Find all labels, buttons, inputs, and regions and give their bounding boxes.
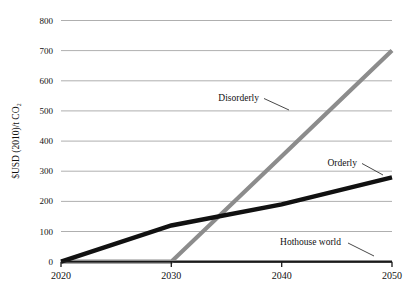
series-line-orderly [61,177,392,261]
y-tick-label: 800 [40,16,54,26]
x-axis-tick-labels: 2020 2030 2040 2050 [51,270,402,281]
gridlines [61,21,392,232]
y-tick-label: 400 [40,136,54,146]
series-line-disorderly [61,51,392,262]
annotation-orderly: Orderly [327,158,383,175]
y-tick-label: 600 [40,76,54,86]
y-tick-label: 300 [40,166,54,176]
x-tick-label: 2030 [161,270,181,281]
annotation-hothouse-world-leader [348,243,374,256]
annotation-hothouse-world-label: Hothouse world [280,237,341,247]
y-tick-label: 700 [40,46,54,56]
x-tick-label: 2040 [272,270,292,281]
annotation-disorderly-leader [264,99,289,111]
y-tick-label: 200 [40,196,54,206]
y-tick-label: 100 [40,227,54,237]
annotation-disorderly: Disorderly [218,93,289,110]
annotation-disorderly-label: Disorderly [218,93,259,103]
y-tick-label: 0 [49,257,54,267]
y-axis-tick-labels: 800 700 600 500 400 300 200 100 0 [40,16,54,267]
annotation-orderly-leader [362,164,383,176]
annotation-hothouse-world: Hothouse world [280,237,374,256]
annotation-orderly-label: Orderly [327,158,357,168]
carbon-price-scenarios-line-chart: 800 700 600 500 400 300 200 100 0 $USD (… [0,0,410,291]
x-tick-label: 2020 [51,270,71,281]
y-axis-title: $USD (2010)/t CO₂ [11,103,22,179]
y-tick-label: 500 [40,106,54,116]
chart-container: 800 700 600 500 400 300 200 100 0 $USD (… [0,0,410,291]
x-tick-label: 2050 [382,270,402,281]
